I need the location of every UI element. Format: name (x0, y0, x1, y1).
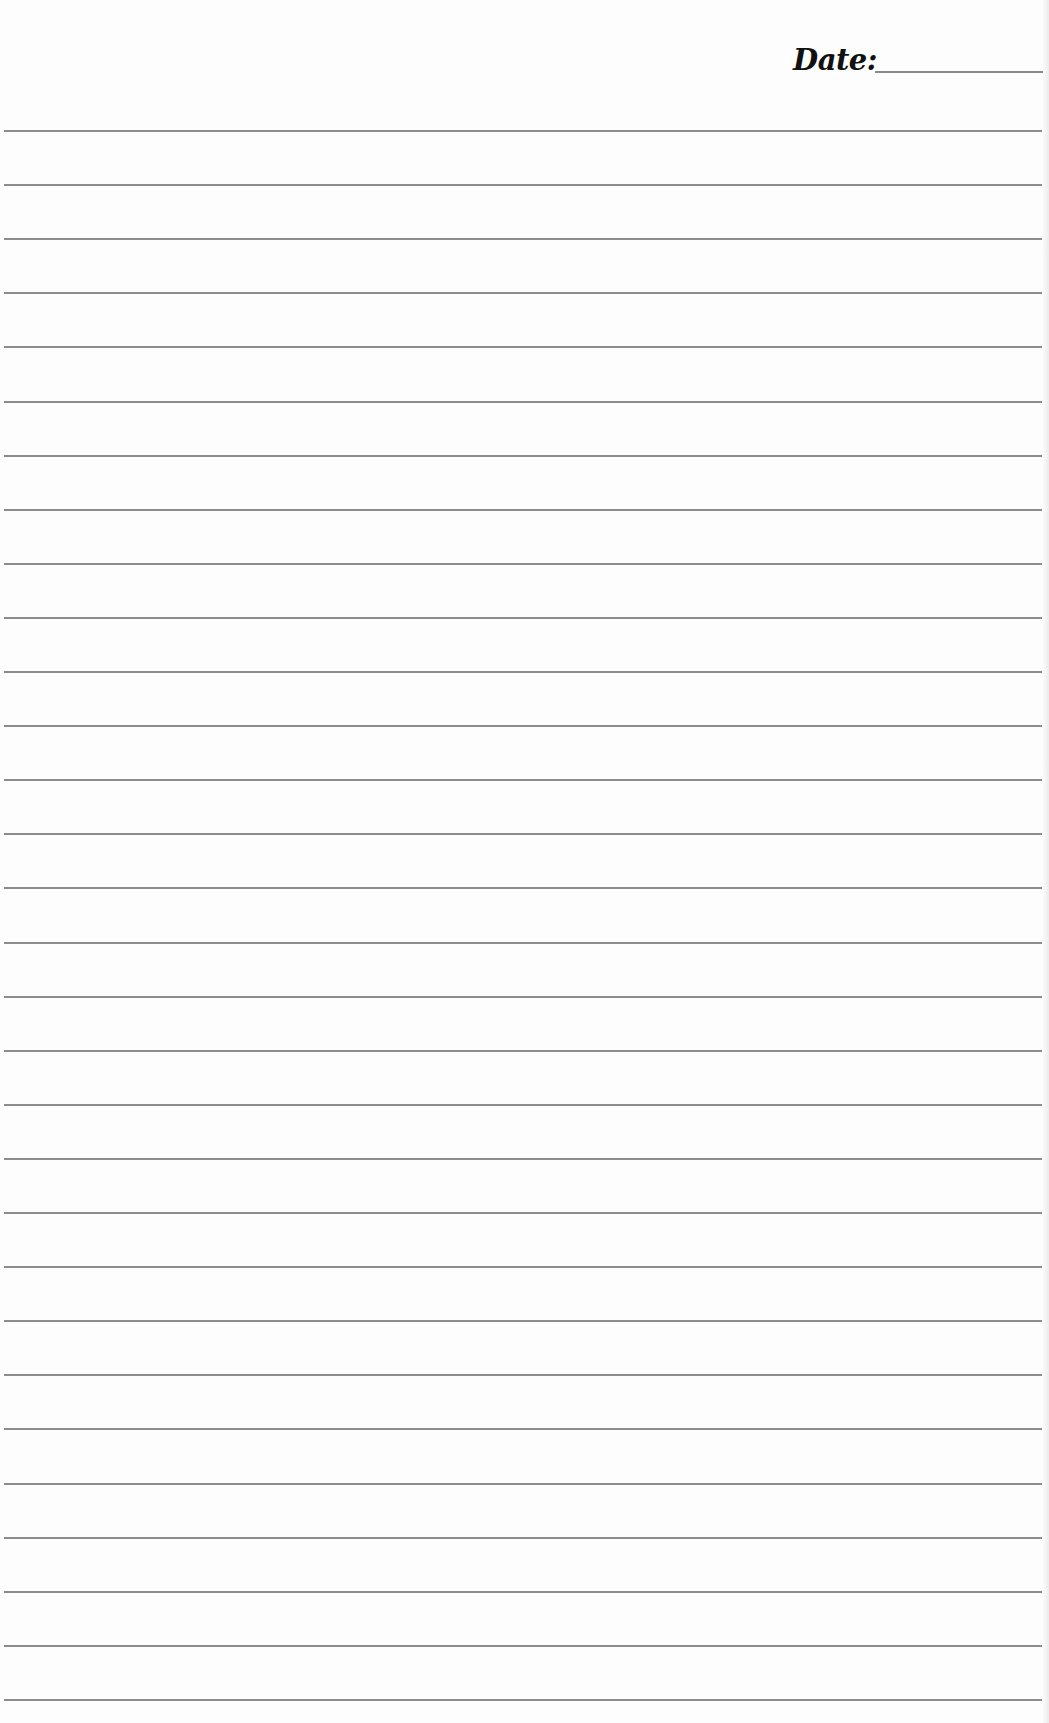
writing-line (4, 779, 1042, 781)
writing-line (4, 1537, 1042, 1539)
writing-line (4, 292, 1042, 294)
writing-line (4, 455, 1042, 457)
writing-line (4, 725, 1042, 727)
writing-line (4, 996, 1042, 998)
date-header: Date: (793, 42, 877, 78)
writing-line (4, 887, 1042, 889)
writing-line (4, 184, 1042, 186)
writing-line (4, 563, 1042, 565)
writing-line (4, 1645, 1042, 1647)
writing-line (4, 1428, 1042, 1430)
writing-line (4, 1374, 1042, 1376)
writing-line (4, 509, 1042, 511)
writing-line (4, 833, 1042, 835)
writing-line (4, 346, 1042, 348)
notebook-page: Date: (0, 0, 1049, 1723)
writing-line (4, 1212, 1042, 1214)
writing-line (4, 671, 1042, 673)
page-edge-shadow (1041, 0, 1049, 1723)
writing-line (4, 1104, 1042, 1106)
writing-line (4, 1050, 1042, 1052)
writing-line (4, 1320, 1042, 1322)
writing-line (4, 238, 1042, 240)
date-field-line[interactable] (875, 71, 1043, 73)
writing-line (4, 130, 1042, 132)
date-label: Date: (793, 42, 877, 78)
writing-line (4, 942, 1042, 944)
writing-line (4, 1483, 1042, 1485)
writing-line (4, 1158, 1042, 1160)
writing-line (4, 1699, 1042, 1701)
writing-line (4, 1266, 1042, 1268)
writing-line (4, 401, 1042, 403)
writing-line (4, 617, 1042, 619)
writing-line (4, 1591, 1042, 1593)
